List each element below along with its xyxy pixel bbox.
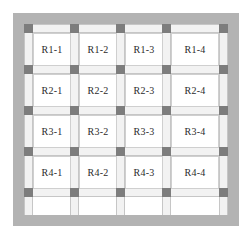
column-node[interactable] [162, 188, 171, 197]
column-node[interactable] [24, 65, 33, 74]
room-label: R1-4 [185, 45, 206, 55]
room-cell[interactable]: R3-3 [125, 115, 163, 148]
interior-field: R1-1 R1-2 R1-3 R1-4 R2-1 R2-2 R2-3 R2- [24, 24, 228, 215]
beam-horizontal [24, 188, 228, 197]
room-cell[interactable]: R1-2 [79, 33, 117, 66]
room-cell[interactable]: R2-2 [79, 74, 117, 107]
room-label: R2-1 [42, 86, 63, 96]
room-cell[interactable]: R2-1 [33, 74, 71, 107]
room-cell[interactable]: R4-1 [33, 156, 71, 189]
room-cell[interactable]: R2-4 [171, 74, 219, 107]
column-node[interactable] [219, 147, 228, 156]
room-label: R3-2 [88, 127, 109, 137]
beam-vertical [162, 24, 171, 215]
column-node[interactable] [219, 106, 228, 115]
room-label: R4-4 [185, 168, 206, 178]
column-node[interactable] [162, 24, 171, 33]
beam-horizontal [24, 106, 228, 115]
beam-vertical [24, 24, 33, 215]
room-label: R3-1 [42, 127, 63, 137]
beam-horizontal [24, 65, 228, 74]
column-node[interactable] [70, 147, 79, 156]
room-cell[interactable]: R4-2 [79, 156, 117, 189]
beam-horizontal [24, 147, 228, 156]
column-node[interactable] [70, 24, 79, 33]
room-cell[interactable]: R1-3 [125, 33, 163, 66]
room-label: R3-3 [134, 127, 155, 137]
room-cell[interactable]: R3-4 [171, 115, 219, 148]
room-cell[interactable]: R3-2 [79, 115, 117, 148]
beam-vertical [116, 24, 125, 215]
beam-vertical [70, 24, 79, 215]
room-label: R1-2 [88, 45, 109, 55]
room-label: R1-1 [42, 45, 63, 55]
column-node[interactable] [70, 65, 79, 74]
room-cell[interactable]: R2-3 [125, 74, 163, 107]
column-node[interactable] [70, 188, 79, 197]
column-node[interactable] [24, 24, 33, 33]
column-node[interactable] [116, 147, 125, 156]
room-label: R4-2 [88, 168, 109, 178]
column-node[interactable] [116, 188, 125, 197]
room-label: R2-2 [88, 86, 109, 96]
column-node[interactable] [24, 106, 33, 115]
column-node[interactable] [162, 147, 171, 156]
room-cell[interactable]: R4-3 [125, 156, 163, 189]
column-node[interactable] [116, 106, 125, 115]
column-node[interactable] [219, 188, 228, 197]
room-label: R2-3 [134, 86, 155, 96]
room-label: R4-3 [134, 168, 155, 178]
column-node[interactable] [24, 188, 33, 197]
room-cell[interactable]: R1-1 [33, 33, 71, 66]
room-label: R3-4 [185, 127, 206, 137]
beam-vertical [219, 24, 228, 215]
room-cell[interactable]: R4-4 [171, 156, 219, 189]
column-node[interactable] [70, 106, 79, 115]
room-cell[interactable]: R3-1 [33, 115, 71, 148]
room-label: R4-1 [42, 168, 63, 178]
floor-plan-canvas: R1-1 R1-2 R1-3 R1-4 R2-1 R2-2 R2-3 R2- [0, 0, 252, 239]
column-node[interactable] [116, 65, 125, 74]
column-node[interactable] [24, 147, 33, 156]
room-label: R2-4 [185, 86, 206, 96]
column-node[interactable] [162, 106, 171, 115]
column-node[interactable] [219, 24, 228, 33]
beam-horizontal [24, 24, 228, 33]
room-cell[interactable]: R1-4 [171, 33, 219, 66]
column-node[interactable] [219, 65, 228, 74]
column-node[interactable] [116, 24, 125, 33]
column-node[interactable] [162, 65, 171, 74]
room-label: R1-3 [134, 45, 155, 55]
